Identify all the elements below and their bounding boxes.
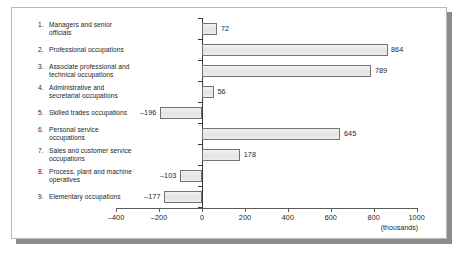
category-index: 3.: [38, 63, 49, 79]
bar: [202, 44, 388, 56]
bar-value-label: 178: [244, 150, 256, 159]
value-tick-label: 200: [225, 213, 265, 222]
value-tick: [374, 208, 375, 212]
bar-value-label: 789: [375, 66, 387, 75]
value-tick-label: 400: [268, 213, 308, 222]
category-tick: [198, 123, 203, 124]
category-name: Personal serviceoccupations: [49, 126, 198, 142]
value-tick-label: 1000: [397, 213, 437, 222]
category-name: Administrative andsecretarial occupation…: [49, 84, 198, 100]
bar-value-label: 72: [221, 24, 229, 33]
bar: [202, 65, 371, 77]
bar: [202, 149, 240, 161]
category-index: 6.: [38, 126, 49, 142]
value-tick-label: 600: [311, 213, 351, 222]
value-tick: [202, 208, 203, 212]
bar-chart-plot-area: 1.Managers and seniorofficials2.Professi…: [12, 8, 448, 240]
bar-value-label: –103: [12, 171, 176, 180]
bar: [202, 86, 214, 98]
bar-value-label: –196: [12, 108, 156, 117]
category-tick: [198, 60, 203, 61]
category-name: Associate professional andtechnical occu…: [49, 63, 198, 79]
category-name: Sales and customer serviceoccupations: [49, 147, 198, 163]
bar-value-label: 864: [391, 45, 403, 54]
bar-value-label: 645: [344, 129, 356, 138]
category-index: 1.: [38, 21, 49, 37]
bar: [180, 170, 202, 182]
bar-value-label: 56: [218, 87, 226, 96]
value-tick-label: –200: [139, 213, 179, 222]
value-tick-label: 0: [182, 213, 222, 222]
value-tick: [288, 208, 289, 212]
figure-page: 1.Managers and seniorofficials2.Professi…: [0, 0, 459, 262]
bar: [202, 128, 340, 140]
axis-unit-label: (thousands): [381, 224, 419, 231]
category-index: 4.: [38, 84, 49, 100]
category-name: Professional occupations: [49, 46, 198, 54]
value-tick: [331, 208, 332, 212]
value-axis-line: [116, 208, 417, 209]
category-tick: [198, 102, 203, 103]
category-tick: [198, 39, 203, 40]
category-name: Managers and seniorofficials: [49, 21, 198, 37]
category-label-row: 3.Associate professional andtechnical oc…: [38, 63, 198, 79]
bar-value-label: –177: [12, 192, 160, 201]
category-label-row: 1.Managers and seniorofficials: [38, 21, 198, 37]
bar: [202, 23, 217, 35]
category-index: 7.: [38, 147, 49, 163]
category-tick: [198, 186, 203, 187]
value-tick: [159, 208, 160, 212]
category-tick: [198, 165, 203, 166]
bar: [160, 107, 202, 119]
category-tick: [198, 18, 203, 19]
value-tick-label: 800: [354, 213, 394, 222]
value-tick-label: –400: [96, 213, 136, 222]
value-tick: [417, 208, 418, 212]
value-tick: [116, 208, 117, 212]
category-label-row: 7.Sales and customer serviceoccupations: [38, 147, 198, 163]
category-label-row: 6.Personal serviceoccupations: [38, 126, 198, 142]
category-label-row: 2.Professional occupations: [38, 46, 198, 54]
bar: [164, 191, 202, 203]
category-label-row: 4.Administrative andsecretarial occupati…: [38, 84, 198, 100]
category-tick: [198, 144, 203, 145]
category-tick: [198, 81, 203, 82]
category-index: 2.: [38, 46, 49, 54]
value-tick: [245, 208, 246, 212]
figure-frame: 1.Managers and seniorofficials2.Professi…: [11, 7, 447, 239]
